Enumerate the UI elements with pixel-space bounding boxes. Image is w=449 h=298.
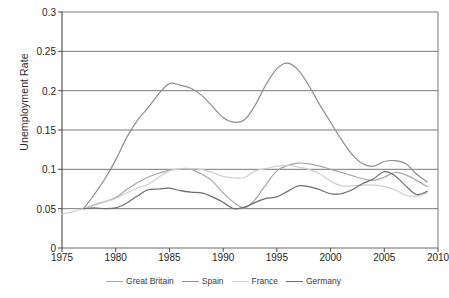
legend-label: France — [252, 276, 278, 286]
series-line-germany — [83, 172, 427, 209]
legend-item-spain[interactable]: Spain — [182, 276, 224, 286]
legend-line-icon — [106, 281, 123, 282]
legend-label: Germany — [306, 276, 341, 286]
legend-line-icon — [286, 281, 303, 282]
chart-legend: Great BritainSpainFranceGermany — [0, 276, 447, 286]
legend-item-france[interactable]: France — [232, 276, 278, 286]
legend-line-icon — [182, 281, 199, 282]
legend-line-icon — [232, 281, 249, 282]
series-line-spain — [83, 63, 427, 209]
legend-item-great-britain[interactable]: Great Britain — [106, 276, 174, 286]
legend-label: Great Britain — [126, 276, 174, 286]
legend-label: Spain — [202, 276, 224, 286]
legend-item-germany[interactable]: Germany — [286, 276, 341, 286]
